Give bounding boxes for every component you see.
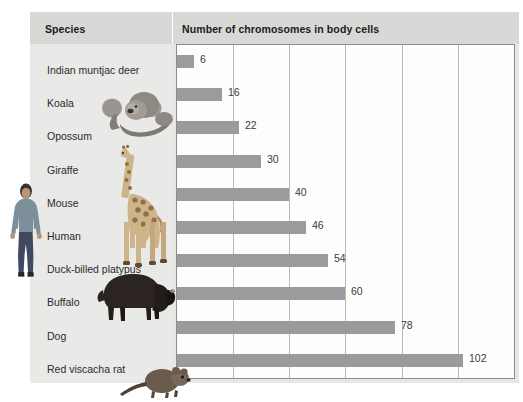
chart-panel: Species Number of chromosomes in body ce… bbox=[30, 12, 519, 383]
bar-value-red-viscacha-rat: 102 bbox=[469, 352, 487, 364]
bar-row-duck-billed-platypus: 54 bbox=[177, 244, 514, 277]
bar-row-koala: 16 bbox=[177, 78, 514, 111]
bar-value-dog: 78 bbox=[401, 319, 413, 331]
species-column-header: Species bbox=[45, 23, 85, 35]
bar-red-viscacha-rat bbox=[177, 354, 463, 367]
bar-opossum bbox=[177, 121, 239, 134]
chromosomes-column-header: Number of chromosomes in body cells bbox=[182, 23, 379, 35]
bar-value-giraffe: 30 bbox=[267, 153, 279, 165]
bar-value-buffalo: 60 bbox=[351, 285, 363, 297]
species-label-human: Human bbox=[47, 230, 81, 242]
bar-value-human: 46 bbox=[312, 219, 324, 231]
bar-row-dog: 78 bbox=[177, 311, 514, 344]
bar-koala bbox=[177, 88, 222, 101]
bar-row-human: 46 bbox=[177, 211, 514, 244]
species-label-duck-billed-platypus: Duck-billed platypus bbox=[47, 263, 141, 275]
bar-row-indian-muntjac-deer: 6 bbox=[177, 45, 514, 78]
bar-row-red-viscacha-rat: 102 bbox=[177, 344, 514, 377]
bar-row-mouse: 40 bbox=[177, 178, 514, 211]
table-header: Species Number of chromosomes in body ce… bbox=[30, 12, 519, 44]
bar-value-indian-muntjac-deer: 6 bbox=[200, 53, 206, 65]
species-label-koala: Koala bbox=[47, 97, 74, 109]
bar-mouse bbox=[177, 188, 289, 201]
bar-row-buffalo: 60 bbox=[177, 277, 514, 310]
bar-buffalo bbox=[177, 287, 345, 300]
species-label-dog: Dog bbox=[47, 330, 66, 342]
bar-value-koala: 16 bbox=[228, 86, 240, 98]
giraffe-photo bbox=[108, 142, 170, 254]
species-label-red-viscacha-rat: Red viscacha rat bbox=[47, 363, 125, 375]
species-label-indian-muntjac-deer: Indian muntjac deer bbox=[47, 64, 139, 76]
bar-value-opossum: 22 bbox=[245, 119, 257, 131]
bar-giraffe bbox=[177, 155, 261, 168]
koala-photo bbox=[92, 88, 178, 140]
bar-row-giraffe: 30 bbox=[177, 145, 514, 178]
bar-indian-muntjac-deer bbox=[177, 55, 194, 68]
bar-row-opossum: 22 bbox=[177, 111, 514, 144]
bar-human bbox=[177, 221, 306, 234]
bar-chart-plot: 6 16 22 30 40 46 bbox=[176, 44, 515, 379]
bar-value-duck-billed-platypus: 54 bbox=[334, 252, 346, 264]
bar-value-mouse: 40 bbox=[295, 186, 307, 198]
species-column: Indian muntjac deer Koala Opossum Giraff… bbox=[30, 44, 172, 383]
species-label-opossum: Opossum bbox=[47, 130, 92, 142]
species-label-giraffe: Giraffe bbox=[47, 164, 78, 176]
header-divider bbox=[172, 12, 173, 44]
bar-duck-billed-platypus bbox=[177, 254, 328, 267]
species-label-mouse: Mouse bbox=[47, 197, 79, 209]
bar-dog bbox=[177, 321, 395, 334]
species-label-buffalo: Buffalo bbox=[47, 296, 80, 308]
